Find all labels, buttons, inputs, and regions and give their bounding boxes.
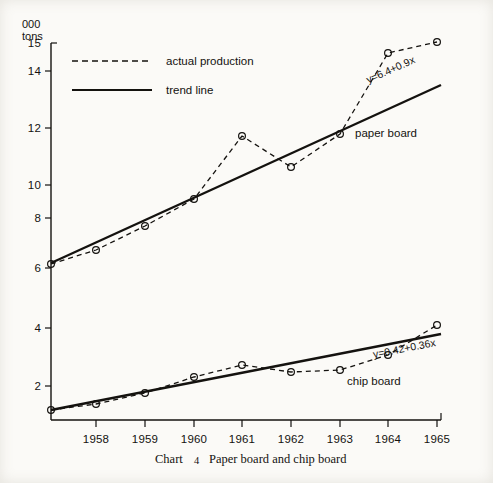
paper-board-series-label: paper board xyxy=(355,127,417,139)
y-tick-label: 14 xyxy=(28,65,42,77)
chip-board-equation-label: y=0.42+0.36x xyxy=(372,336,437,360)
x-tick-label: 1960 xyxy=(181,433,207,445)
chart-svg: 000 tons 2 4 6 8 10 12 14 15 xyxy=(0,0,493,483)
x-tick-label: 1962 xyxy=(278,433,304,445)
x-tick-label: 1959 xyxy=(132,433,158,445)
y-tick-label: 4 xyxy=(34,322,41,334)
data-point-marker xyxy=(288,164,295,171)
paper-board-equation-label: y=6.4+0.9x xyxy=(364,53,417,85)
caption-prefix: Chart xyxy=(155,452,183,466)
y-tick-label: 12 xyxy=(28,122,41,134)
legend-label-actual-production: actual production xyxy=(166,55,254,67)
x-tick-label: 1958 xyxy=(83,433,109,445)
axis-lines xyxy=(51,43,441,420)
x-tick-label: 1963 xyxy=(327,433,353,445)
data-point-marker xyxy=(434,322,441,329)
caption-number: 4 xyxy=(194,455,200,466)
y-tick-label: 8 xyxy=(34,212,41,224)
unit-label-line1: 000 xyxy=(22,18,40,30)
chart-caption: Chart 4 Paper board and chip board xyxy=(155,452,347,466)
chart-figure: 000 tons 2 4 6 8 10 12 14 15 xyxy=(0,0,493,483)
y-axis-ticks: 2 4 6 8 10 12 14 15 xyxy=(28,37,51,392)
y-tick-label: 6 xyxy=(34,262,41,274)
paper-board-trend-line xyxy=(51,85,441,263)
x-tick-label: 1965 xyxy=(424,433,450,445)
y-tick-label: 10 xyxy=(28,179,41,191)
x-tick-label: 1964 xyxy=(375,433,402,445)
chart-legend: actual production trend line xyxy=(72,55,254,96)
chip-board-series-label: chip board xyxy=(347,375,401,387)
y-tick-label: 2 xyxy=(34,380,41,392)
legend-label-trend-line: trend line xyxy=(166,84,213,96)
y-tick-label: 15 xyxy=(28,37,41,49)
x-axis-ticks: 1958 1959 1960 1961 1962 1963 1964 1965 xyxy=(83,420,450,445)
x-tick-label: 1961 xyxy=(229,433,255,445)
caption-text: Paper board and chip board xyxy=(209,452,347,466)
